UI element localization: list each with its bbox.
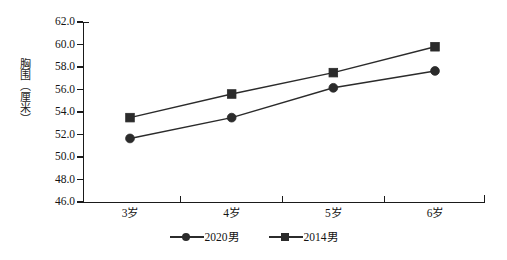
y-axis-line (83, 22, 84, 203)
x-tick-label-unit: 岁 (432, 206, 443, 220)
x-tick-label: 3岁 (100, 206, 160, 220)
series-line (130, 71, 435, 139)
y-tick-mark (77, 21, 83, 22)
legend-label-suffix: 男 (327, 230, 338, 244)
square-marker (126, 113, 135, 122)
y-tick-label: 56.0 (30, 84, 75, 96)
y-tick-label: 58.0 (30, 61, 75, 73)
legend-square-icon (269, 231, 303, 243)
y-tick-mark (77, 111, 83, 112)
legend-item[interactable]: 2020男 (170, 231, 239, 243)
y-tick-label: 54.0 (30, 106, 75, 118)
y-tick-label-text: 60.0 (35, 39, 75, 51)
legend-label: 2014男 (304, 231, 338, 243)
square-marker (329, 68, 338, 77)
circle-marker (227, 113, 236, 122)
series-2 (126, 42, 440, 121)
x-tick-label: 6岁 (405, 206, 465, 220)
line-chart: 胸围（厘米） 62.060.058.056.054.052.050.048.04… (0, 0, 507, 260)
circle-marker (182, 233, 190, 241)
circle-marker (329, 83, 338, 92)
y-tick-mark (77, 156, 83, 157)
y-tick-label-text: 52.0 (35, 129, 75, 141)
x-tick-mark (384, 196, 385, 202)
y-tick-mark (77, 44, 83, 45)
series-layer (0, 0, 507, 260)
circle-marker (126, 134, 135, 143)
y-axis-title: 胸围（厘米） (11, 58, 31, 124)
x-tick-label: 5岁 (303, 206, 363, 220)
square-marker (281, 233, 289, 241)
y-tick-label-text: 46.0 (35, 196, 75, 208)
y-tick-mark (77, 179, 83, 180)
y-tick-label-text: 56.0 (35, 84, 75, 96)
legend-label-year: 2014 (304, 231, 327, 243)
y-tick-label-text: 62.0 (35, 16, 75, 28)
square-marker (431, 42, 440, 51)
y-tick-mark (77, 201, 83, 202)
chart-legend: 2020男2014男 (0, 231, 507, 243)
y-tick-mark (77, 89, 83, 90)
y-tick-mark (77, 66, 83, 67)
x-tick-label-unit: 岁 (127, 206, 138, 220)
circle-marker (431, 67, 440, 76)
y-tick-label-text: 50.0 (35, 151, 75, 163)
x-tick-mark (180, 196, 181, 202)
y-tick-label-text: 54.0 (35, 106, 75, 118)
legend-item[interactable]: 2014男 (269, 231, 338, 243)
y-tick-label: 60.0 (30, 39, 75, 51)
y-tick-label: 48.0 (30, 174, 75, 186)
x-tick-mark (282, 196, 283, 202)
y-tick-label: 50.0 (30, 151, 75, 163)
y-tick-label-text: 58.0 (35, 61, 75, 73)
y-tick-mark (77, 134, 83, 135)
legend-label-year: 2020 (205, 231, 228, 243)
x-tick-label-unit: 岁 (229, 206, 240, 220)
series-line (130, 47, 435, 118)
y-tick-label: 62.0 (30, 16, 75, 28)
y-axis-top-tick (83, 22, 89, 23)
y-tick-label-text: 48.0 (35, 174, 75, 186)
legend-label-suffix: 男 (228, 230, 239, 244)
legend-label: 2020男 (205, 231, 239, 243)
legend-circle-icon (170, 231, 204, 243)
x-tick-label: 4岁 (202, 206, 262, 220)
square-marker (227, 90, 236, 99)
series-1 (126, 67, 440, 143)
y-tick-label: 46.0 (30, 196, 75, 208)
x-tick-label-unit: 岁 (331, 206, 342, 220)
x-axis-end-tick (484, 195, 485, 202)
x-axis-line (83, 202, 485, 203)
y-tick-label: 52.0 (30, 129, 75, 141)
